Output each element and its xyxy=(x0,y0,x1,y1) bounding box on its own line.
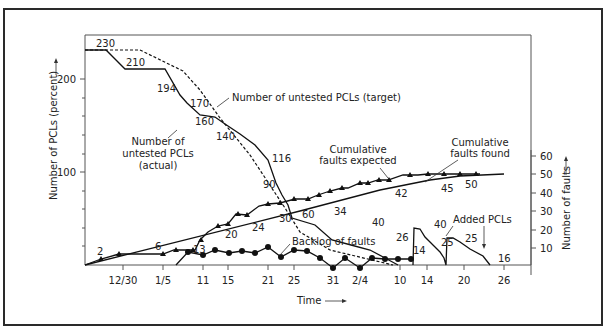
svg-text:30: 30 xyxy=(279,213,292,224)
svg-text:90: 90 xyxy=(263,179,276,190)
svg-text:26: 26 xyxy=(396,232,409,243)
svg-text:15: 15 xyxy=(222,275,235,286)
y-right-tick-labels: 10 20 30 40 50 60 xyxy=(540,151,553,254)
y-axis-label: Number of PCLs (percent) xyxy=(48,71,59,200)
svg-text:25: 25 xyxy=(465,233,478,244)
x-ticks xyxy=(123,265,504,270)
svg-text:31: 31 xyxy=(327,275,340,286)
y-tick-100: 100 xyxy=(57,167,76,178)
svg-text:24: 24 xyxy=(252,222,265,233)
svg-text:26: 26 xyxy=(498,275,511,286)
svg-text:140: 140 xyxy=(216,131,235,142)
annotation-backlog: Backlog of faults xyxy=(292,236,375,247)
annotation-actual: Number of untested PCLs (actual) xyxy=(122,136,193,171)
svg-text:2/4: 2/4 xyxy=(352,275,368,286)
svg-text:1/5: 1/5 xyxy=(155,275,171,286)
svg-text:34: 34 xyxy=(334,206,347,217)
circle-markers xyxy=(185,244,414,271)
svg-text:60: 60 xyxy=(302,209,315,220)
annotation-expected-leader xyxy=(380,168,388,178)
annotation-added: Added PCLs xyxy=(453,214,512,225)
svg-text:untested PCLs: untested PCLs xyxy=(122,148,193,159)
svg-text:210: 210 xyxy=(126,57,145,68)
svg-text:230: 230 xyxy=(96,38,115,49)
y2-axis-label: Number of faults xyxy=(561,166,572,250)
svg-text:14: 14 xyxy=(421,275,434,286)
svg-text:2: 2 xyxy=(97,246,103,257)
svg-text:20: 20 xyxy=(225,229,238,240)
svg-text:6: 6 xyxy=(155,241,161,252)
svg-text:25: 25 xyxy=(288,275,301,286)
svg-text:170: 170 xyxy=(190,98,209,109)
svg-text:25: 25 xyxy=(441,237,454,248)
annotation-found: Cumulative faults found xyxy=(450,137,510,159)
svg-text:Number of: Number of xyxy=(132,136,185,147)
svg-text:10: 10 xyxy=(540,243,553,254)
svg-text:194: 194 xyxy=(157,83,176,94)
chart: 200 100 Number of PCLs (percent) 12/30 1… xyxy=(0,0,610,336)
svg-text:14: 14 xyxy=(413,245,426,256)
svg-text:16: 16 xyxy=(498,253,511,264)
annotation-target-leader xyxy=(217,98,229,107)
svg-text:50: 50 xyxy=(465,179,478,190)
svg-text:20: 20 xyxy=(540,225,553,236)
svg-text:11: 11 xyxy=(197,275,210,286)
annotation-added-leader-1 xyxy=(446,226,453,236)
svg-text:45: 45 xyxy=(441,183,454,194)
svg-text:Cumulative: Cumulative xyxy=(451,137,508,148)
svg-text:13: 13 xyxy=(193,244,206,255)
svg-text:20: 20 xyxy=(458,275,471,286)
svg-text:30: 30 xyxy=(540,206,553,217)
y-tick-200: 200 xyxy=(57,74,76,85)
annotation-expected: Cumulative faults expected xyxy=(319,144,396,166)
arrow-up-icon xyxy=(564,156,568,161)
svg-text:Cumulative: Cumulative xyxy=(329,144,386,155)
svg-text:40: 40 xyxy=(372,217,385,228)
y-right-ticks xyxy=(531,156,536,248)
svg-text:50: 50 xyxy=(540,169,553,180)
svg-text:21: 21 xyxy=(262,275,275,286)
svg-text:10: 10 xyxy=(394,275,407,286)
y-left-ticks xyxy=(80,79,85,246)
x-tick-labels: 12/30 1/5 11 15 21 25 31 2/4 10 14 20 26 xyxy=(109,275,511,286)
svg-text:60: 60 xyxy=(540,151,553,162)
x-axis-label: Time xyxy=(296,295,321,306)
svg-text:12/30: 12/30 xyxy=(109,275,138,286)
svg-text:faults expected: faults expected xyxy=(319,155,396,166)
arrow-up-icon xyxy=(54,58,58,63)
svg-text:40: 40 xyxy=(434,219,447,230)
annotation-target: Number of untested PCLs (target) xyxy=(232,92,401,103)
svg-text:160: 160 xyxy=(195,116,214,127)
added-point-labels: 40 25 25 16 xyxy=(434,219,511,264)
svg-text:faults found: faults found xyxy=(450,148,510,159)
svg-text:116: 116 xyxy=(272,153,291,164)
svg-text:(actual): (actual) xyxy=(139,160,178,171)
svg-text:42: 42 xyxy=(395,188,408,199)
arrow-down-icon xyxy=(482,244,486,249)
arrow-right-icon xyxy=(342,299,347,303)
svg-text:40: 40 xyxy=(540,188,553,199)
